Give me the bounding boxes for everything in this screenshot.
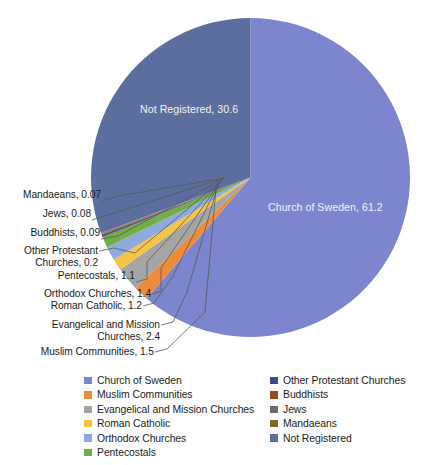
callout-label-muslim-communities: Muslim Communities, 1.5 xyxy=(0,346,154,358)
legend-item-muslim-communities[interactable]: Muslim Communities xyxy=(84,388,270,401)
callout-label-buddhists: Buddhists, 0.09 xyxy=(0,227,100,239)
legend-item-church-of-sweden[interactable]: Church of Sweden xyxy=(84,374,270,387)
legend-swatch-icon xyxy=(84,420,92,428)
legend-swatch-icon xyxy=(270,420,278,428)
legend-item-label: Muslim Communities xyxy=(97,389,193,400)
legend-swatch-icon xyxy=(270,434,278,442)
slice-label-not-registered: Not Registered, 30.6 xyxy=(140,103,238,115)
legend-item-label: Mandaeans xyxy=(283,418,337,429)
callout-label-evangelical-and-mission-churches: Evangelical and Mission Churches, 2.4 xyxy=(0,319,160,344)
legend-item-buddhists[interactable]: Buddhists xyxy=(270,388,434,401)
callout-label-mandaeans: Mandaeans, 0.07 xyxy=(0,189,101,201)
legend-item-jews[interactable]: Jews xyxy=(270,403,434,416)
chart-legend: Church of SwedenMuslim CommunitiesEvange… xyxy=(84,374,434,459)
legend-item-pentecostals[interactable]: Pentecostals xyxy=(84,446,270,459)
legend-swatch-icon xyxy=(84,449,92,457)
pie-chart-figure: Church of Sweden, 61.2 Not Registered, 3… xyxy=(0,0,438,465)
legend-column-left: Church of SwedenMuslim CommunitiesEvange… xyxy=(84,374,270,459)
legend-item-not-registered[interactable]: Not Registered xyxy=(270,432,434,445)
legend-swatch-icon xyxy=(270,406,278,414)
legend-item-orthodox-churches[interactable]: Orthodox Churches xyxy=(84,432,270,445)
legend-swatch-icon xyxy=(84,377,92,385)
legend-swatch-icon xyxy=(84,434,92,442)
callout-label-other-protestant-churches: Other Protestant Churches, 0.2 xyxy=(0,245,98,270)
legend-swatch-icon xyxy=(84,406,92,414)
callout-label-roman-catholic: Roman Catholic, 1.2 xyxy=(0,300,142,312)
callout-label-jews: Jews, 0.08 xyxy=(0,208,91,220)
callout-label-pentecostals: Pentecostals, 1.1 xyxy=(0,270,135,282)
legend-item-label: Church of Sweden xyxy=(97,375,182,386)
legend-item-label: Orthodox Churches xyxy=(97,433,186,444)
legend-item-mandaeans[interactable]: Mandaeans xyxy=(270,417,434,430)
legend-swatch-icon xyxy=(270,391,278,399)
legend-item-label: Not Registered xyxy=(283,433,352,444)
legend-item-label: Pentecostals xyxy=(97,447,156,458)
legend-column-right: Other Protestant ChurchesBuddhistsJewsMa… xyxy=(270,374,434,459)
legend-item-label: Roman Catholic xyxy=(97,418,170,429)
legend-swatch-icon xyxy=(84,391,92,399)
legend-item-label: Jews xyxy=(283,404,306,415)
legend-item-roman-catholic[interactable]: Roman Catholic xyxy=(84,417,270,430)
legend-item-label: Other Protestant Churches xyxy=(283,375,405,386)
legend-item-label: Evangelical and Mission Churches xyxy=(97,404,254,415)
legend-item-label: Buddhists xyxy=(283,389,328,400)
legend-item-other-protestant-churches[interactable]: Other Protestant Churches xyxy=(270,374,434,387)
slice-label-church-of-sweden: Church of Sweden, 61.2 xyxy=(268,201,383,213)
legend-swatch-icon xyxy=(270,377,278,385)
legend-item-evangelical-and-mission-churches[interactable]: Evangelical and Mission Churches xyxy=(84,403,270,416)
callout-label-orthodox-churches: Orthodox Churches, 1.4 xyxy=(0,288,151,300)
